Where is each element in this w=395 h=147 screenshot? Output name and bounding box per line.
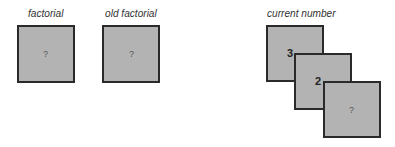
- label-factorial: factorial: [28, 7, 63, 19]
- value-factorial: ?: [43, 49, 48, 59]
- value-old-factorial: ?: [129, 49, 134, 59]
- box-factorial: ?: [17, 25, 75, 83]
- value-current-number-3: ?: [349, 105, 354, 115]
- box-old-factorial: ?: [102, 25, 160, 83]
- label-current-number: current number: [267, 7, 336, 19]
- label-old-factorial: old factorial: [105, 7, 157, 19]
- value-current-number-2: 2: [315, 75, 321, 87]
- box-current-number-3: ?: [323, 81, 381, 138]
- value-current-number-1: 3: [287, 47, 293, 59]
